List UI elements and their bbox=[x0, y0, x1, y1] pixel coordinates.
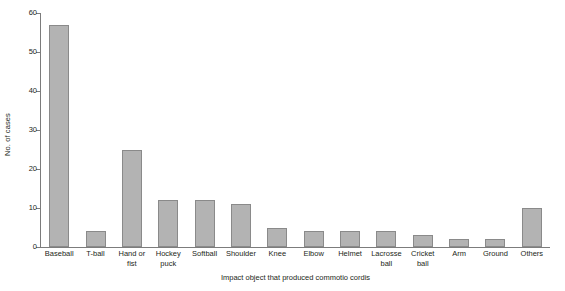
bar bbox=[522, 208, 542, 247]
x-axis-title: Impact object that produced commotio cor… bbox=[41, 273, 550, 282]
bar bbox=[449, 239, 469, 247]
bar bbox=[158, 200, 178, 247]
y-tick-label: 50 bbox=[29, 47, 37, 56]
bar bbox=[122, 150, 142, 248]
y-tick-label: 60 bbox=[29, 8, 37, 17]
y-tick-label: 20 bbox=[29, 164, 37, 173]
bar bbox=[49, 25, 69, 247]
x-axis-label: Others bbox=[510, 249, 554, 259]
bar bbox=[267, 228, 287, 248]
bar bbox=[231, 204, 251, 247]
y-tick-label: 10 bbox=[29, 203, 37, 212]
y-tick-label: 40 bbox=[29, 86, 37, 95]
plot-area: 0102030405060 bbox=[40, 13, 550, 247]
bars-layer bbox=[41, 13, 550, 248]
bar bbox=[340, 231, 360, 247]
bar bbox=[86, 231, 106, 247]
bar bbox=[485, 239, 505, 247]
bar bbox=[195, 200, 215, 247]
bar bbox=[376, 231, 396, 247]
y-axis-label: No. of cases bbox=[0, 95, 14, 175]
bar bbox=[304, 231, 324, 247]
bar bbox=[413, 235, 433, 247]
bar-chart-figure: No. of cases 0102030405060 BaseballT-bal… bbox=[0, 0, 565, 291]
y-tick-label: 30 bbox=[29, 125, 37, 134]
x-axis-category-labels: BaseballT-ballHand or fistHockey puckSof… bbox=[41, 249, 550, 275]
